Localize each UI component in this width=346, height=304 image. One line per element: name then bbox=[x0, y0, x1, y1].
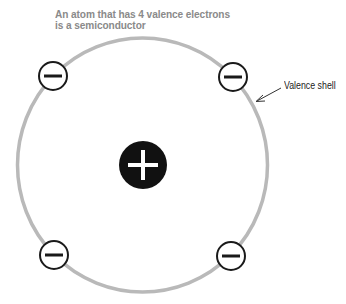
electron-top-left-icon bbox=[39, 62, 67, 90]
electron-top-right-icon bbox=[219, 63, 247, 91]
nucleus-positive-icon bbox=[119, 141, 167, 189]
valence-shell-label: Valence shell bbox=[284, 80, 336, 91]
atom-diagram bbox=[0, 0, 346, 304]
electron-bottom-left-icon bbox=[40, 241, 68, 269]
valence-shell-arrow-icon bbox=[256, 88, 281, 102]
electron-bottom-right-icon bbox=[217, 242, 245, 270]
